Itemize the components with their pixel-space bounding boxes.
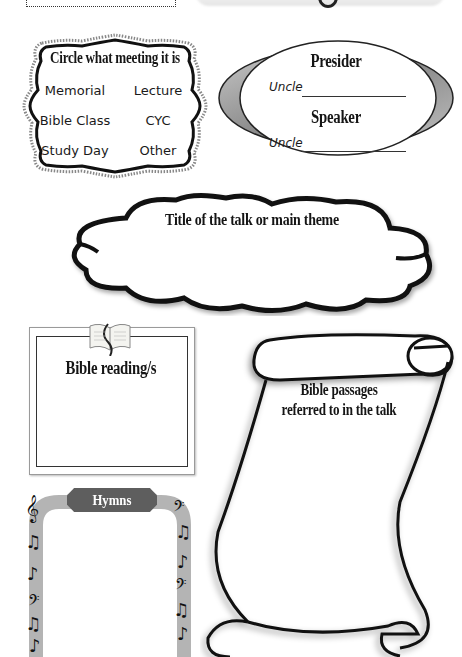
roles-oval: Presider Uncle Speaker Uncle xyxy=(216,38,456,158)
bible-passages-label-line1: Bible passages xyxy=(263,380,416,400)
bible-passages-scroll[interactable]: Bible passages referred to in the talk xyxy=(200,322,462,657)
eighth-notes-icon: ♫ xyxy=(25,533,41,551)
bass-clef-icon: 𝄢 xyxy=(173,499,185,517)
presider-title: Presider xyxy=(238,51,435,72)
talk-title-cloud[interactable]: Title of the talk or main theme xyxy=(66,192,438,316)
scroll-shape-icon xyxy=(200,322,462,657)
bible-reading-label: Bible reading/s xyxy=(50,358,173,379)
top-dotted-box-fragment xyxy=(26,0,176,7)
option-lecture[interactable]: Lecture xyxy=(118,83,198,98)
quarter-note-icon: ♪ xyxy=(177,625,189,643)
quarter-note-icon: ♪ xyxy=(27,565,39,583)
quarter-note-icon: ♪ xyxy=(29,637,41,655)
bass-clef-icon: 𝄢 xyxy=(28,593,40,611)
option-bible-class[interactable]: Bible Class xyxy=(35,113,115,128)
presider-prefix: Uncle xyxy=(269,80,303,94)
meeting-selector-title: Circle what meeting it is xyxy=(39,49,192,67)
speaker-input[interactable] xyxy=(302,151,406,152)
talk-title-label: Title of the talk or main theme xyxy=(99,210,404,230)
meeting-type-frame: Circle what meeting it is Memorial Lectu… xyxy=(22,33,208,179)
option-cyc[interactable]: CYC xyxy=(118,113,198,128)
presider-input[interactable] xyxy=(302,96,406,97)
treble-clef-icon: 𝄞 xyxy=(25,499,39,517)
top-letter-fragment xyxy=(318,0,338,8)
speaker-title: Speaker xyxy=(238,107,435,128)
eighth-notes-icon: ♫ xyxy=(25,615,41,633)
hymns-input[interactable] xyxy=(44,520,177,657)
option-study-day[interactable]: Study Day xyxy=(35,143,115,158)
hymns-banner: Hymns xyxy=(67,488,157,512)
option-memorial[interactable]: Memorial xyxy=(35,83,115,98)
quarter-note-icon: ♪ xyxy=(177,553,189,571)
hymns-label: Hymns xyxy=(93,492,132,509)
open-book-icon xyxy=(86,320,134,356)
option-other[interactable]: Other xyxy=(118,143,198,158)
speaker-prefix: Uncle xyxy=(269,136,303,150)
eighth-notes-icon: ♫ xyxy=(175,523,191,541)
bible-passages-label-line2: referred to in the talk xyxy=(263,400,416,420)
